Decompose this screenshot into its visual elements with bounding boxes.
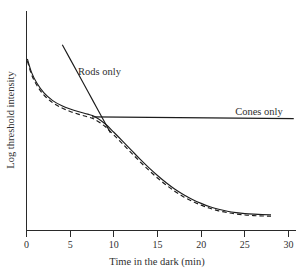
- rods-only-annotation: Rods only: [78, 66, 122, 77]
- x-tick-label-15: 15: [153, 239, 163, 250]
- x-axis-tick-marks: [27, 231, 289, 237]
- x-tick-label-0: 0: [24, 239, 29, 250]
- cones-only-line: [92, 117, 294, 119]
- dark-adaptation-chart-figure: 0 5 10 15 20 25 30 Rods only Cones only …: [0, 0, 302, 271]
- x-axis-tick-labels: 0 5 10 15 20 25 30: [24, 239, 294, 250]
- series-annotations: Rods only Cones only: [78, 66, 283, 116]
- x-tick-label-30: 30: [284, 239, 294, 250]
- cones-only-annotation: Cones only: [235, 106, 283, 117]
- x-tick-label-20: 20: [196, 239, 206, 250]
- chart-canvas: 0 5 10 15 20 25 30 Rods only Cones only …: [0, 0, 302, 271]
- y-axis-title: Log threshold intensity: [5, 71, 16, 169]
- x-axis-title: Time in the dark (min): [109, 256, 205, 268]
- data-series-group: [27, 45, 293, 216]
- dark-adaptation-curve-dashed: [27, 61, 271, 216]
- x-tick-label-25: 25: [240, 239, 250, 250]
- rods-only-line: [62, 45, 110, 133]
- dark-adaptation-curve-solid: [27, 59, 271, 215]
- axis-titles: Time in the dark (min) Log threshold int…: [5, 71, 205, 268]
- x-tick-label-5: 5: [68, 239, 73, 250]
- x-tick-label-10: 10: [109, 239, 119, 250]
